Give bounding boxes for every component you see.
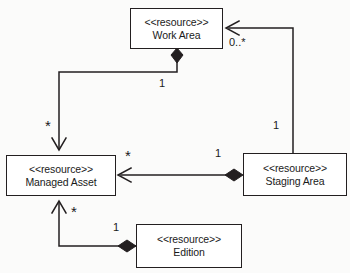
multiplicity-staging-vertical: 1 <box>273 120 279 131</box>
diamond-edition <box>118 240 136 252</box>
class-box-edition[interactable]: <<resource>> Edition <box>136 224 242 268</box>
multiplicity-staging-end: 1 <box>215 148 221 159</box>
class-box-staging-area[interactable]: <<resource>> Staging Area <box>243 153 347 196</box>
multiplicity-edition-end: 1 <box>113 222 119 233</box>
multiplicity-work-area-target: * <box>45 118 51 133</box>
stereotype-work-area: <<resource>> <box>144 16 208 29</box>
stereotype-staging-area: <<resource>> <box>263 162 327 175</box>
stereotype-managed-asset: <<resource>> <box>29 163 93 176</box>
class-box-work-area[interactable]: <<resource>> Work Area <box>130 8 223 49</box>
connector-staging-area-managed-asset <box>118 168 228 182</box>
multiplicity-managed-asset-left: * <box>125 148 131 163</box>
uml-class-diagram: <<resource>> Work Area <<resource>> Mana… <box>0 0 350 273</box>
connector-work-area-managed-asset <box>52 62 177 150</box>
multiplicity-edition-target: * <box>71 204 77 219</box>
multiplicity-staging-to-work-area: 0..* <box>229 37 246 48</box>
composition-diamonds <box>118 48 243 252</box>
connector-edition-managed-asset <box>52 201 136 246</box>
class-name-edition: Edition <box>173 246 204 259</box>
stereotype-edition: <<resource>> <box>157 233 221 246</box>
class-box-managed-asset[interactable]: <<resource>> Managed Asset <box>6 155 116 196</box>
diamond-staging-area <box>225 169 243 181</box>
class-name-managed-asset: Managed Asset <box>25 176 96 189</box>
multiplicity-work-area-end: 1 <box>159 78 165 89</box>
diamond-work-area <box>171 48 183 63</box>
class-name-staging-area: Staging Area <box>266 175 325 188</box>
class-name-work-area: Work Area <box>153 29 201 42</box>
